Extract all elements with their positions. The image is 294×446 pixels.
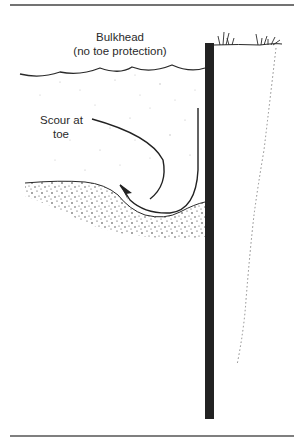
diagram-canvas <box>0 0 294 446</box>
diagram-subtitle: (no toe protection) <box>55 44 185 58</box>
sediment-bed <box>25 181 205 238</box>
flow-curve-outer <box>120 108 198 213</box>
bulkhead-scour-diagram: Bulkhead (no toe protection) Scour at to… <box>0 0 294 446</box>
grass-tufts-icon <box>218 32 280 45</box>
scour-annotation-line2: toe <box>53 127 69 141</box>
diagram-title: Bulkhead <box>65 30 175 44</box>
arrow-head-icon <box>120 184 132 200</box>
backfill-boundary <box>237 48 276 365</box>
scour-annotation-line1: Scour at <box>40 113 83 127</box>
water-surface <box>20 65 205 76</box>
bulkhead-wall <box>205 43 214 419</box>
